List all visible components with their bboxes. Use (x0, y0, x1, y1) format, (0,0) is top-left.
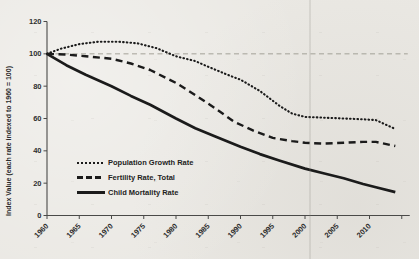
scanned-page: 0204060801001201960196519701975198019851… (0, 0, 419, 259)
x-tick-label: 1990 (226, 222, 244, 240)
series-dotted (47, 42, 395, 129)
line-chart: 0204060801001201960196519701975198019851… (0, 0, 419, 259)
y-tick-label: 120 (29, 17, 42, 26)
x-tick-label: 2010 (355, 222, 373, 240)
x-tick-label: 1995 (258, 222, 276, 240)
legend-label: Child Mortality Rate (108, 188, 178, 197)
x-tick-label: 1980 (161, 222, 179, 240)
y-tick-label: 60 (33, 114, 41, 123)
legend-label: Population Growth Rate (108, 158, 193, 167)
x-tick-label: 1965 (65, 222, 83, 240)
legend-label: Fertility Rate, Total (108, 173, 175, 182)
y-axis-title: Index Value (each rate indexed to 1960 =… (5, 66, 12, 216)
x-tick-label: 2000 (290, 222, 308, 240)
legend-item-child-mortality-rate: Child Mortality Rate (77, 185, 193, 200)
x-tick-label: 1975 (129, 222, 147, 240)
y-tick-label: 80 (33, 82, 41, 91)
x-tick-label: 1960 (32, 222, 50, 240)
x-axis-ticks: 1960196519701975198019851990199520002005… (32, 216, 401, 240)
legend-item-fertility-rate: Fertility Rate, Total (77, 170, 193, 185)
x-tick-label: 1985 (194, 222, 212, 240)
y-tick-label: 20 (33, 179, 41, 188)
chart-legend: Population Growth Rate Fertility Rate, T… (77, 155, 193, 200)
series-dashed (47, 54, 395, 146)
y-tick-label: 40 (33, 146, 41, 155)
y-tick-label: 100 (29, 49, 42, 58)
dashed-line-icon (77, 176, 101, 179)
x-tick-label: 2005 (323, 222, 341, 240)
y-tick-label: 0 (37, 211, 41, 220)
dotted-line-icon (77, 162, 103, 164)
y-axis-ticks: 020406080100120 (29, 17, 47, 220)
x-tick-label: 1970 (97, 222, 115, 240)
solid-line-icon (77, 191, 105, 194)
legend-item-population-growth-rate: Population Growth Rate (77, 155, 193, 170)
